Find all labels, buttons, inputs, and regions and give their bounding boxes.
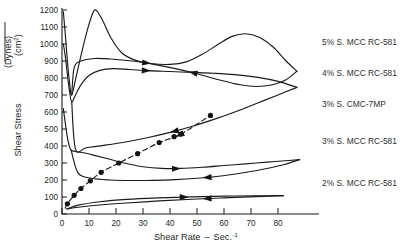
- series-0: [63, 10, 297, 95]
- y-axis-title: Shear Stress (Dynes) (cm2): [3, 22, 23, 157]
- down-curve: [63, 44, 297, 102]
- data-point-marker: [99, 170, 104, 175]
- up-curve-arrow: [202, 174, 211, 181]
- y-tick-label: 100: [44, 193, 58, 202]
- data-point-marker: [65, 201, 70, 206]
- x-tick-label: 10: [84, 219, 94, 228]
- data-point-marker: [78, 186, 83, 191]
- y-tick-label: 300: [44, 159, 58, 168]
- data-point-marker: [178, 132, 183, 137]
- x-tick-label: 40: [165, 219, 175, 228]
- y-tick-label: 0: [53, 210, 58, 219]
- x-tick-label: 70: [246, 219, 256, 228]
- series-label-4: 2% S. MCC RC-581: [322, 178, 397, 188]
- data-point-marker: [157, 140, 162, 145]
- series-label-2: 3% S. CMC-7MP: [322, 99, 386, 109]
- x-tick-label: 30: [138, 219, 148, 228]
- series-label-3: 3% S. MCC RC-581: [322, 136, 397, 146]
- cmc-dashed-line: [65, 115, 210, 208]
- down-curve-arrow: [142, 59, 152, 66]
- down-curve-arrow: [172, 165, 181, 172]
- data-point-marker: [135, 151, 140, 156]
- x-axis-title: Shear Rate–Sec.-1: [154, 231, 239, 242]
- chart-container: 0100200300400500600700800900100011001200…: [0, 0, 403, 245]
- down-curve: [63, 109, 299, 169]
- down-curve-arrow: [142, 67, 151, 74]
- down-curve: [67, 196, 284, 209]
- y-tick-label: 700: [44, 91, 58, 100]
- x-tick-label: 50: [192, 219, 202, 228]
- data-point-marker: [72, 193, 77, 198]
- y-tick-label: 900: [44, 57, 58, 66]
- down-curve: [63, 10, 297, 95]
- y-tick-label: 1100: [40, 23, 58, 32]
- data-point-marker: [171, 134, 176, 139]
- series-3: [63, 109, 299, 181]
- y-tick-label: 1200: [40, 6, 59, 15]
- up-curve: [72, 58, 297, 95]
- rheology-hysteresis-chart: 0100200300400500600700800900100011001200…: [0, 0, 403, 245]
- y-axis-title-denominator: (cm2): [12, 34, 23, 56]
- y-tick-label: 500: [44, 125, 58, 134]
- y-tick-label: 600: [44, 108, 58, 117]
- x-tick-label: 0: [60, 219, 65, 228]
- x-tick-label: 60: [219, 219, 229, 228]
- axes-group: 0100200300400500600700800900100011001200…: [40, 6, 319, 228]
- y-tick-label: 400: [44, 142, 58, 151]
- curves-group: [63, 10, 299, 209]
- up-curve: [72, 87, 297, 152]
- data-point-marker: [208, 113, 213, 118]
- y-tick-label: 1000: [40, 40, 59, 49]
- up-curve: [71, 150, 299, 180]
- series-label-0: 5% S. MCC RC-581: [322, 37, 397, 47]
- y-axis-title-main: Shear Stress: [13, 103, 23, 157]
- series-labels-group: 5% S. MCC RC-5814% S. MCC RC-5813% S. CM…: [322, 37, 397, 188]
- series-label-1: 4% S. MCC RC-581: [322, 68, 397, 78]
- x-axis-title-text: Shear Rate–Sec.-1: [154, 231, 239, 242]
- series-4: [67, 194, 284, 209]
- x-tick-label: 80: [273, 219, 283, 228]
- y-tick-label: 200: [44, 176, 58, 185]
- y-tick-label: 800: [44, 74, 58, 83]
- data-point-marker: [88, 178, 93, 183]
- x-tick-label: 20: [111, 219, 121, 228]
